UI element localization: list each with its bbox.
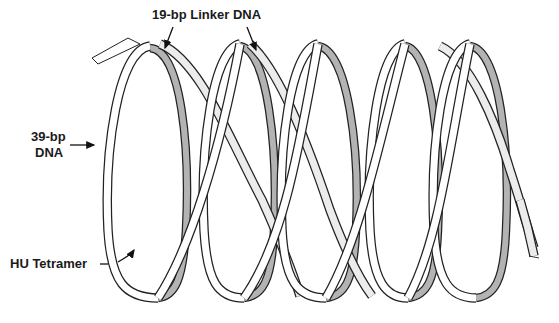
loop-1-front-in [107, 46, 158, 298]
superhelix-svg: 19-bp Linker DNA 39-bp DNA HU Tetramer [0, 0, 559, 323]
arrow-hu-tetramer [118, 250, 134, 262]
ribbon-end-cap [529, 256, 539, 258]
label-39bp-line2: DNA [35, 145, 64, 160]
annotations: 19-bp Linker DNA 39-bp DNA HU Tetramer [10, 7, 262, 271]
label-hu-tetramer: HU Tetramer [10, 256, 87, 271]
label-linker-dna: 19-bp Linker DNA [152, 7, 262, 22]
dna-hu-superhelix-figure: 19-bp Linker DNA 39-bp DNA HU Tetramer [0, 0, 559, 323]
label-39bp-line1: 39-bp [31, 129, 66, 144]
